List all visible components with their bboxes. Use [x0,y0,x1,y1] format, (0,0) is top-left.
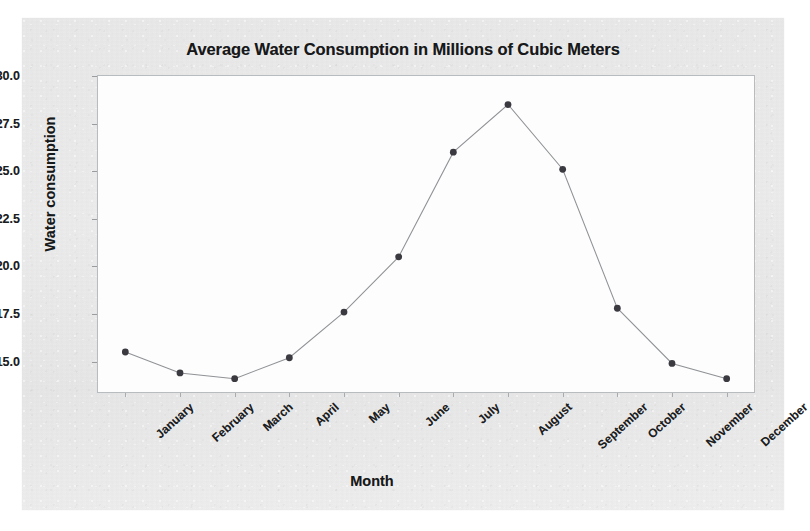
x-tick-mark [563,393,564,397]
data-point[interactable] [614,305,621,312]
x-axis-title: Month [22,473,722,489]
data-point[interactable] [395,253,402,260]
y-tick-mark [92,76,97,77]
chart-title: Average Water Consumption in Millions of… [22,40,784,59]
y-tick-label: 17.5 [0,307,20,321]
x-tick-mark [289,393,290,397]
data-point[interactable] [286,354,293,361]
x-tick-mark [453,393,454,397]
y-tick-label: 30.0 [0,69,20,83]
chart-figure: Average Water Consumption in Millions of… [22,18,784,510]
data-point[interactable] [341,309,348,316]
y-tick-label: 25.0 [0,164,20,178]
series-line [125,105,726,379]
y-tick-label: 15.0 [0,355,20,369]
series-markers [122,101,730,382]
y-tick-mark [92,314,97,315]
x-tick-mark [508,393,509,397]
x-tick-label: October [645,400,689,441]
x-tick-mark [344,393,345,397]
data-point[interactable] [559,166,566,173]
x-tick-label: May [366,400,393,426]
x-tick-mark [672,393,673,397]
x-tick-mark [617,393,618,397]
y-tick-mark [92,124,97,125]
plot-inner [98,76,754,392]
data-point[interactable] [669,360,676,367]
y-tick-mark [92,219,97,220]
y-tick-mark [92,362,97,363]
x-tick-label: July [475,400,502,426]
y-tick-mark [92,266,97,267]
x-tick-label: August [535,400,575,438]
y-tick-label: 22.5 [0,212,20,226]
x-tick-mark [125,393,126,397]
x-tick-mark [727,393,728,397]
x-tick-label: February [209,400,257,445]
x-tick-label: March [260,400,296,434]
data-point[interactable] [723,375,730,382]
x-tick-mark [180,393,181,397]
x-tick-label: December [758,400,810,449]
y-axis-title: Water consumption [42,64,58,304]
y-tick-mark [92,171,97,172]
line-series-svg [98,76,754,392]
data-point[interactable] [177,370,184,377]
x-tick-label: January [153,400,197,441]
plot-area [97,75,755,393]
y-tick-label: 20.0 [0,259,20,273]
x-tick-mark [399,393,400,397]
x-tick-label: April [312,400,342,429]
data-point[interactable] [450,149,457,156]
x-tick-label: June [422,400,452,429]
x-tick-label: September [595,400,650,452]
y-tick-label: 27.5 [0,117,20,131]
x-tick-mark [235,393,236,397]
x-tick-label: November [703,400,756,450]
data-point[interactable] [122,349,129,356]
data-point[interactable] [231,375,238,382]
data-point[interactable] [505,101,512,108]
